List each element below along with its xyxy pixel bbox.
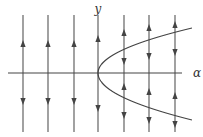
flow-arrows	[20, 21, 177, 128]
arrow-up-icon	[172, 92, 177, 99]
arrow-up-icon	[146, 24, 151, 31]
arrow-down-icon	[95, 105, 100, 112]
arrow-up-icon	[121, 83, 126, 90]
arrow-up-icon	[172, 21, 177, 28]
y-axis-label: y	[94, 2, 102, 16]
equilibrium-parabola	[98, 28, 192, 120]
arrow-up-icon	[71, 40, 76, 47]
arrow-down-icon	[45, 98, 50, 105]
arrow-up-icon	[121, 29, 126, 36]
arrow-down-icon	[146, 117, 151, 124]
arrow-up-icon	[20, 40, 25, 47]
arrow-up-icon	[45, 40, 50, 47]
arrow-up-icon	[146, 88, 151, 95]
arrow-down-icon	[121, 58, 126, 65]
arrow-down-icon	[146, 53, 151, 60]
arrow-down-icon	[20, 98, 25, 105]
alpha-axis-label: α	[193, 66, 201, 80]
phase-diagram: y α	[0, 0, 203, 137]
arrow-down-icon	[172, 49, 177, 56]
arrow-down-icon	[172, 121, 177, 128]
arrow-up-icon	[95, 35, 100, 42]
arrow-down-icon	[121, 112, 126, 119]
arrow-down-icon	[71, 98, 76, 105]
